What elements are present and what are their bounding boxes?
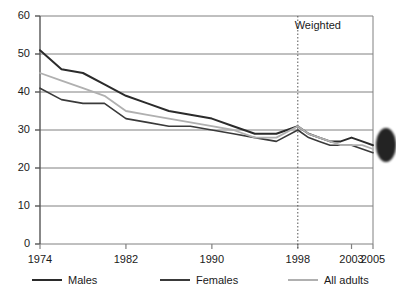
weighted-annotation: Weighted	[295, 19, 341, 31]
y-tick-label-30: 30	[4, 123, 30, 135]
legend-swatch-females	[160, 279, 190, 281]
x-tick-label-1990: 1990	[190, 253, 234, 265]
y-tick-label-60: 60	[4, 9, 30, 21]
y-tick-label-20: 20	[4, 161, 30, 173]
plot-frame	[35, 16, 373, 249]
legend-label-all-adults: All adults	[324, 274, 369, 286]
series-line-females	[40, 88, 373, 153]
legend-swatch-all-adults	[288, 279, 318, 281]
x-tick-label-1974: 1974	[18, 253, 62, 265]
legend-item-all-adults: All adults	[288, 274, 369, 286]
x-tick-label-1982: 1982	[104, 253, 148, 265]
y-tick-label-50: 50	[4, 47, 30, 59]
series-line-all-adults	[40, 73, 373, 149]
y-tick-label-40: 40	[4, 85, 30, 97]
chart-legend: Males Females All adults	[0, 272, 388, 295]
x-tick-label-1998: 1998	[276, 253, 320, 265]
legend-label-females: Females	[196, 274, 238, 286]
page-edge-artifact	[376, 128, 396, 162]
series-line-males	[40, 50, 373, 145]
y-tick-label-10: 10	[4, 199, 30, 211]
series-lines	[40, 50, 373, 153]
gridlines	[40, 16, 373, 244]
legend-label-males: Males	[68, 274, 97, 286]
legend-item-males: Males	[32, 274, 97, 286]
y-tick-label-0: 0	[4, 237, 30, 249]
legend-item-females: Females	[160, 274, 238, 286]
x-tick-label-2005: 2005	[351, 253, 395, 265]
legend-swatch-males	[32, 279, 62, 281]
